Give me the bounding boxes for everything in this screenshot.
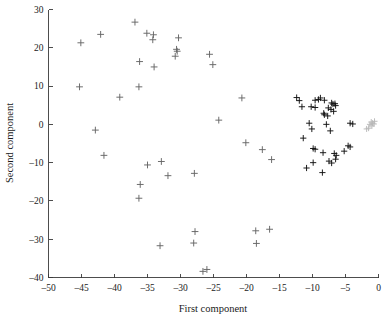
data-point-marker	[333, 156, 339, 162]
x-tick-label: 0	[376, 283, 381, 293]
data-point-marker	[299, 104, 305, 110]
x-tick-label: –5	[340, 283, 351, 293]
data-point-marker	[136, 195, 143, 202]
data-point-marker	[309, 126, 315, 132]
data-point-marker	[158, 158, 165, 165]
x-tick-label: –20	[238, 283, 254, 293]
data-point-marker	[321, 110, 327, 116]
data-point-marker	[300, 135, 306, 141]
data-point-marker	[327, 128, 333, 134]
data-point-marker	[266, 226, 273, 233]
data-point-marker	[253, 240, 260, 247]
data-point-marker	[215, 117, 222, 124]
data-point-marker	[209, 61, 216, 68]
data-point-marker	[76, 83, 83, 90]
data-point-marker	[206, 51, 213, 58]
data-point-marker	[150, 31, 157, 38]
data-point-marker	[101, 152, 108, 159]
data-point-marker	[175, 34, 182, 41]
data-point-marker	[149, 36, 156, 43]
y-tick-label: 30	[34, 5, 44, 15]
y-tick-label: 10	[34, 81, 44, 91]
series-dense-cluster	[294, 94, 356, 175]
x-tick-label: –10	[304, 283, 320, 293]
data-point-marker	[92, 127, 99, 134]
data-point-marker	[325, 113, 331, 119]
data-point-marker	[116, 94, 123, 101]
y-tick-label: –20	[28, 196, 44, 206]
x-tick-label: –30	[172, 283, 188, 293]
x-tick-label: –25	[205, 283, 221, 293]
data-point-marker	[341, 148, 347, 154]
series-edge-cluster	[364, 118, 378, 132]
data-point-marker	[190, 240, 197, 247]
data-point-marker	[136, 58, 143, 65]
data-point-marker	[132, 19, 139, 26]
y-axis-title: Second component	[4, 103, 15, 183]
x-axis-ticks: –50–45–40–35–30–25–20–15–10–50	[40, 274, 381, 293]
data-points-group	[76, 19, 377, 275]
data-point-marker	[319, 169, 325, 175]
data-point-marker	[77, 39, 84, 46]
series-sparse-group	[76, 19, 275, 275]
x-tick-label: –15	[271, 283, 287, 293]
y-tick-label: –40	[28, 273, 44, 283]
data-point-marker	[320, 150, 326, 156]
y-tick-label: 20	[34, 43, 44, 53]
data-point-marker	[321, 112, 327, 118]
data-point-marker	[312, 97, 318, 103]
data-point-marker	[329, 100, 335, 106]
data-point-marker	[97, 31, 104, 38]
data-point-marker	[136, 83, 143, 90]
data-point-marker	[323, 121, 329, 127]
data-point-marker	[165, 172, 172, 179]
data-point-marker	[151, 64, 158, 71]
data-point-marker	[306, 120, 312, 126]
data-point-marker	[310, 160, 316, 166]
data-point-marker	[157, 242, 164, 249]
data-point-marker	[191, 170, 198, 177]
x-tick-label: –50	[40, 283, 56, 293]
data-point-marker	[308, 104, 314, 110]
x-axis-title: First component	[179, 303, 248, 314]
data-point-marker	[242, 139, 249, 146]
data-point-marker	[137, 181, 144, 188]
data-point-marker	[259, 146, 266, 153]
y-tick-label: –10	[28, 158, 44, 168]
data-point-marker	[252, 227, 259, 234]
data-point-marker	[238, 95, 245, 102]
x-tick-label: –40	[106, 283, 122, 293]
data-point-marker	[312, 104, 318, 110]
x-tick-label: –35	[139, 283, 155, 293]
data-point-marker	[143, 30, 150, 37]
y-tick-label: 0	[39, 120, 44, 130]
scatter-plot-figure: –50–45–40–35–30–25–20–15–10–50 –40–30–20…	[0, 0, 389, 317]
data-point-marker	[268, 156, 275, 163]
data-point-marker	[192, 228, 199, 235]
plot-canvas: –50–45–40–35–30–25–20–15–10–50 –40–30–20…	[0, 0, 389, 317]
data-point-marker	[144, 162, 151, 169]
axes-group	[49, 10, 379, 278]
data-point-marker	[303, 165, 309, 171]
y-tick-label: –30	[28, 235, 44, 245]
x-tick-label: –45	[73, 283, 89, 293]
